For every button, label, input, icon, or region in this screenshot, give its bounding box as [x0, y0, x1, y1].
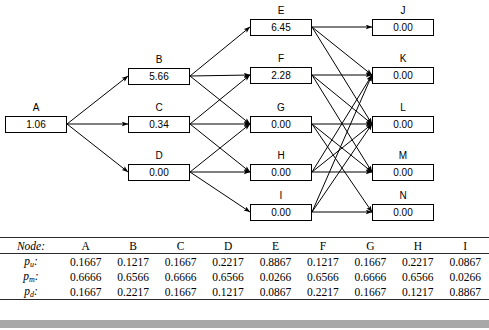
table-cell: 0.8867 [442, 284, 489, 300]
trinomial-tree-diagram: A1.06B5.66C0.34D0.00E6.45F2.28G0.00H0.00… [0, 0, 489, 232]
node-h: H0.00 [250, 164, 312, 181]
table-col-header-e: E [252, 238, 299, 254]
row-label-subscript: d [30, 290, 34, 299]
table-cell: 0.1667 [62, 284, 109, 300]
rule-cell [299, 300, 346, 303]
node-i-value: 0.00 [250, 204, 312, 221]
table-col-header-i: I [442, 238, 489, 254]
rule-cell [157, 300, 204, 303]
table-cell: 0.6666 [62, 269, 109, 284]
edge-f-l [312, 75, 372, 124]
table-cell: 0.1667 [157, 254, 204, 270]
table-col-header-f: F [299, 238, 346, 254]
rule-cell [62, 300, 109, 303]
footer-gray-bar [0, 320, 489, 328]
table-row-label-u: pu: [0, 254, 62, 270]
node-n-value: 0.00 [372, 204, 434, 221]
table-row: pd:0.16670.22170.16670.12170.08670.22170… [0, 284, 489, 300]
node-b-value: 5.66 [128, 68, 190, 85]
edge-d-i [190, 172, 250, 212]
table-header-row: Node:ABCDEFGHI [0, 238, 489, 254]
node-e-label: E [250, 5, 312, 17]
rule-cell [252, 300, 299, 303]
node-f-value: 2.28 [250, 67, 312, 84]
table-col-header-c: C [157, 238, 204, 254]
table-cell: 0.6566 [109, 269, 156, 284]
node-c: C0.34 [128, 116, 190, 133]
edge-a-b [67, 76, 128, 124]
table-row: pu:0.16670.12170.16670.22170.88670.12170… [0, 254, 489, 270]
rule-cell [347, 300, 394, 303]
node-e: E6.45 [250, 19, 312, 36]
table-cell: 0.1217 [109, 254, 156, 270]
node-b: B5.66 [128, 68, 190, 85]
node-d: D0.00 [128, 164, 190, 181]
table-col-header-g: G [347, 238, 394, 254]
table-cell: 0.2217 [204, 254, 251, 270]
table-cell: 0.2217 [394, 254, 441, 270]
node-h-value: 0.00 [250, 164, 312, 181]
rule-cell [0, 300, 62, 303]
table-cell: 0.1667 [157, 284, 204, 300]
probability-table: Node:ABCDEFGHIpu:0.16670.12170.16670.221… [0, 237, 489, 302]
table-row-label-d: pd: [0, 284, 62, 300]
edge-b-f [190, 75, 250, 76]
node-g-label: G [250, 102, 312, 114]
row-label-subscript: u [30, 260, 34, 269]
node-c-value: 0.34 [128, 116, 190, 133]
node-l-label: L [372, 102, 434, 114]
table-cell: 0.6566 [394, 269, 441, 284]
node-m: M0.00 [372, 164, 434, 181]
table-col-header-b: B [109, 238, 156, 254]
table-cell: 0.1217 [204, 284, 251, 300]
table-cell: 0.0867 [442, 254, 489, 270]
node-i-label: I [250, 190, 312, 202]
table-bottom-rule [0, 300, 489, 303]
node-n: N0.00 [372, 204, 434, 221]
node-g: G0.00 [250, 116, 312, 133]
table-cell: 0.8867 [252, 254, 299, 270]
node-h-label: H [250, 150, 312, 162]
node-f: F2.28 [250, 67, 312, 84]
table-row: pm:0.66660.65660.66660.65660.02660.65660… [0, 269, 489, 284]
rule-cell [204, 300, 251, 303]
node-i: I0.00 [250, 204, 312, 221]
table-cell: 0.1667 [347, 284, 394, 300]
table-cell: 0.0867 [252, 284, 299, 300]
node-k: K0.00 [372, 67, 434, 84]
node-d-value: 0.00 [128, 164, 190, 181]
node-m-label: M [372, 150, 434, 162]
table-cell: 0.1217 [299, 254, 346, 270]
node-j-label: J [372, 5, 434, 17]
node-g-value: 0.00 [250, 116, 312, 133]
table-col-header-a: A [62, 238, 109, 254]
table-col-header-d: D [204, 238, 251, 254]
table-cell: 0.1667 [347, 254, 394, 270]
table-cell: 0.1667 [62, 254, 109, 270]
edge-i-k [312, 75, 372, 212]
probability-table-container: Node:ABCDEFGHIpu:0.16670.12170.16670.221… [0, 237, 489, 330]
node-j-value: 0.00 [372, 19, 434, 36]
rule-cell [394, 300, 441, 303]
table-cell: 0.6566 [204, 269, 251, 284]
node-d-label: D [128, 150, 190, 162]
node-m-value: 0.00 [372, 164, 434, 181]
table-cell: 0.6566 [299, 269, 346, 284]
table-cell: 0.6666 [157, 269, 204, 284]
node-k-label: K [372, 53, 434, 65]
node-k-value: 0.00 [372, 67, 434, 84]
table-cell: 0.2217 [109, 284, 156, 300]
table-header-label: Node: [0, 238, 62, 254]
node-f-label: F [250, 53, 312, 65]
row-label-subscript: m [29, 275, 35, 284]
table-cell: 0.1217 [394, 284, 441, 300]
table-cell: 0.6666 [347, 269, 394, 284]
table-col-header-h: H [394, 238, 441, 254]
node-l-value: 0.00 [372, 116, 434, 133]
node-a: A1.06 [5, 116, 67, 133]
table-cell: 0.2217 [299, 284, 346, 300]
edge-e-k [312, 27, 372, 75]
node-j: J0.00 [372, 19, 434, 36]
edge-a-d [67, 124, 128, 172]
node-e-value: 6.45 [250, 19, 312, 36]
